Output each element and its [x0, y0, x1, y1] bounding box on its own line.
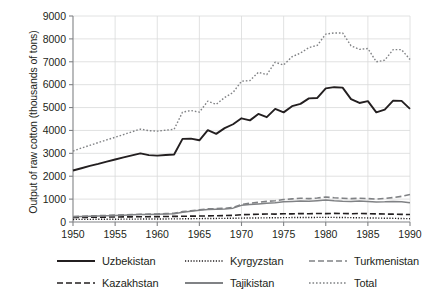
- legend-label: Kazakhstan: [102, 277, 158, 289]
- chart-legend: UzbekistanKyrgyzstanTurkmenistanKazakhst…: [56, 250, 428, 294]
- cotton-output-chart: Output of raw cotton (thousands of tons)…: [0, 0, 434, 294]
- svg-text:1960: 1960: [146, 228, 170, 240]
- svg-text:8000: 8000: [43, 33, 67, 45]
- legend-swatch-uzbekistan-icon: [56, 256, 96, 266]
- svg-text:9000: 9000: [43, 10, 67, 22]
- legend-label: Tajikistan: [230, 277, 274, 289]
- svg-text:2000: 2000: [43, 170, 67, 182]
- y-axis-tick-labels: 0100020003000400050006000700080009000: [43, 10, 67, 228]
- legend-label: Turkmenistan: [354, 255, 419, 267]
- svg-text:1990: 1990: [398, 228, 422, 240]
- svg-text:3000: 3000: [43, 147, 67, 159]
- legend-label: Kyrgyzstan: [230, 255, 283, 267]
- axes: [69, 16, 410, 226]
- svg-text:1955: 1955: [103, 228, 127, 240]
- legend-swatch-tajikistan-icon: [184, 278, 224, 288]
- legend-item-total[interactable]: Total: [308, 272, 428, 294]
- legend-swatch-kazakhstan-icon: [56, 278, 96, 288]
- svg-text:7000: 7000: [43, 56, 67, 68]
- svg-text:1950: 1950: [61, 228, 85, 240]
- svg-text:1000: 1000: [43, 193, 67, 205]
- plot-area: 0100020003000400050006000700080009000 19…: [0, 0, 434, 250]
- legend-swatch-turkmenistan-icon: [308, 256, 348, 266]
- svg-text:1970: 1970: [230, 228, 254, 240]
- legend-item-turkmenistan[interactable]: Turkmenistan: [308, 250, 428, 272]
- svg-text:1975: 1975: [272, 228, 296, 240]
- legend-swatch-kyrgyzstan-icon: [184, 256, 224, 266]
- svg-text:4000: 4000: [43, 124, 67, 136]
- svg-text:5000: 5000: [43, 101, 67, 113]
- svg-text:1965: 1965: [188, 228, 212, 240]
- legend-item-kyrgyzstan[interactable]: Kyrgyzstan: [184, 250, 308, 272]
- legend-item-kazakhstan[interactable]: Kazakhstan: [56, 272, 184, 294]
- svg-text:1985: 1985: [356, 228, 380, 240]
- x-axis-tick-labels: 195019551960196519701975198019851990: [61, 228, 422, 240]
- plot-svg: 0100020003000400050006000700080009000 19…: [0, 0, 434, 250]
- legend-swatch-total-icon: [308, 278, 348, 288]
- legend-label: Total: [354, 277, 377, 289]
- legend-item-tajikistan[interactable]: Tajikistan: [184, 272, 308, 294]
- legend-item-uzbekistan[interactable]: Uzbekistan: [56, 250, 184, 272]
- svg-text:0: 0: [60, 216, 66, 228]
- svg-text:6000: 6000: [43, 78, 67, 90]
- legend-label: Uzbekistan: [102, 255, 155, 267]
- svg-text:1980: 1980: [314, 228, 338, 240]
